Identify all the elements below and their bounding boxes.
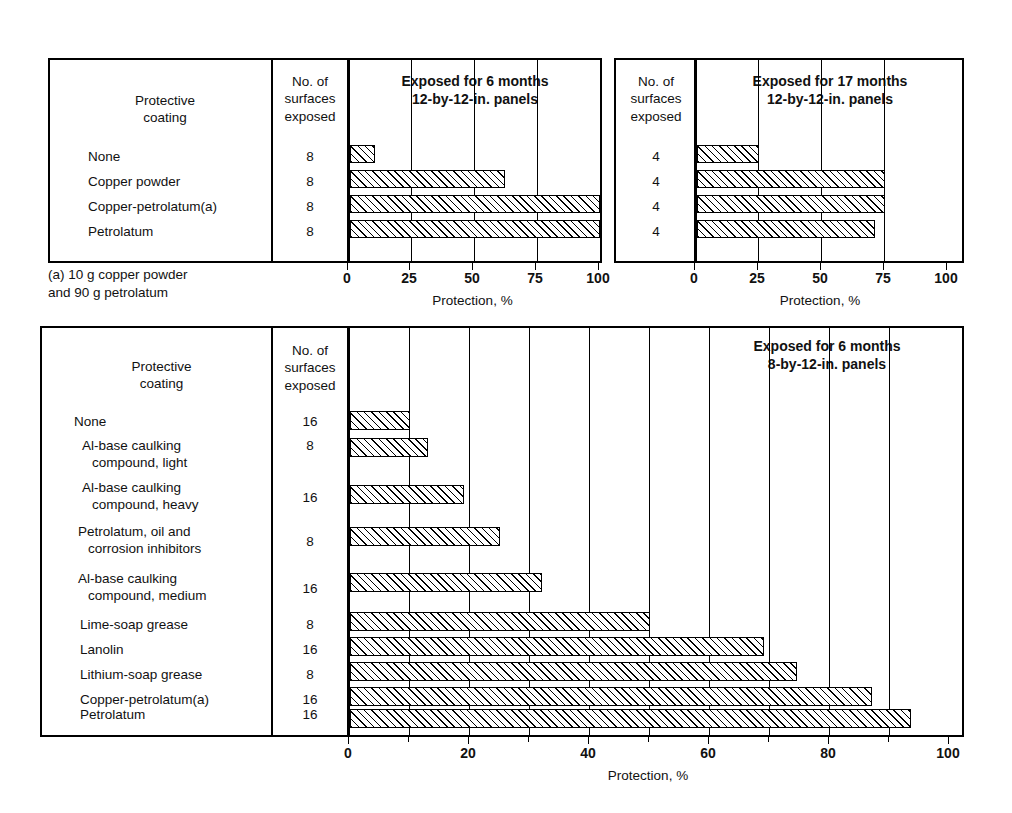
row-label-lime-soap-grease: Lime-soap grease xyxy=(80,617,188,634)
col-header-coating-line2: coating xyxy=(54,375,269,392)
row-label-line: compound, medium xyxy=(78,588,207,605)
axis-title-x: Protection, % xyxy=(347,293,598,308)
row-label-line: Al-base caulking xyxy=(78,571,207,588)
surfaces-value: 4 xyxy=(620,224,692,239)
tick-label: 0 xyxy=(327,270,367,286)
surfaces-value: 8 xyxy=(274,199,346,214)
surfaces-value: 16 xyxy=(274,581,346,596)
col-header-protective-coating: Protective coating xyxy=(60,92,270,127)
col-header-surfaces-line3: exposed xyxy=(274,377,346,394)
surfaces-value: 8 xyxy=(274,534,346,549)
row-label-line: None xyxy=(74,414,106,431)
bar-petrolatum xyxy=(697,220,875,238)
bar-copper-petrolatum xyxy=(350,687,872,706)
bar-lanolin xyxy=(350,637,764,656)
bar-none xyxy=(350,411,410,430)
surfaces-value: 8 xyxy=(274,224,346,239)
tick-mark xyxy=(588,737,589,744)
row-label-petrolatum: Petrolatum xyxy=(80,707,145,724)
bar-none xyxy=(697,145,759,163)
bar-al-base-medium xyxy=(350,573,542,592)
col-header-surfaces-exposed: No. of surfaces exposed xyxy=(274,73,346,125)
bar-none xyxy=(350,145,375,163)
row-label-line: corrosion inhibitors xyxy=(78,541,201,558)
tick-label: 100 xyxy=(926,270,966,286)
bar-lime-soap-grease xyxy=(350,612,650,631)
tick-label: 75 xyxy=(515,270,555,286)
panel-top-left-6-months: Protective coating No. of surfaces expos… xyxy=(48,58,602,263)
surfaces-value: 4 xyxy=(620,149,692,164)
col-header-coating-line1: Protective xyxy=(60,92,270,109)
surfaces-value: 8 xyxy=(274,149,346,164)
axis-title-x: Protection, % xyxy=(694,293,946,308)
surfaces-value: 8 xyxy=(274,667,346,682)
row-label-line: Lanolin xyxy=(80,642,124,659)
col-header-coating-line2: coating xyxy=(60,109,270,126)
tick-mark xyxy=(828,737,829,744)
bar-lithium-soap-grease xyxy=(350,662,797,681)
tick-label: 25 xyxy=(737,270,777,286)
tick-mark xyxy=(708,737,709,744)
tick-label: 40 xyxy=(568,745,608,761)
footnote-a: (a) 10 g copper powder and 90 g petrolat… xyxy=(48,266,288,301)
surfaces-value: 8 xyxy=(274,617,346,632)
row-label-al-base-light: Al-base caulking compound, light xyxy=(82,438,187,471)
plot-area-top-right xyxy=(696,60,962,261)
row-label-copper-powder: Copper powder xyxy=(88,174,180,191)
row-label-lithium-soap-grease: Lithium-soap grease xyxy=(80,667,202,684)
figure-root: Protective coating No. of surfaces expos… xyxy=(0,0,1012,813)
panel-top-right-17-months: No. of surfaces exposed Exposed for 17 m… xyxy=(614,58,964,263)
col-header-protective-coating: Protective coating xyxy=(54,358,269,393)
gridline-75 xyxy=(884,60,885,261)
tick-mark xyxy=(528,737,529,742)
bar-petrolatum-oil-inhibitors xyxy=(350,527,500,546)
column-divider-coating xyxy=(271,60,273,261)
tick-mark xyxy=(468,737,469,744)
tick-mark xyxy=(409,263,410,270)
tick-mark xyxy=(883,263,884,270)
surfaces-value: 16 xyxy=(274,692,346,707)
row-label-none: None xyxy=(74,414,106,431)
col-header-surfaces-line3: exposed xyxy=(274,108,346,125)
col-header-surfaces-exposed: No. of surfaces exposed xyxy=(274,342,346,394)
tick-label: 50 xyxy=(800,270,840,286)
row-label-line: compound, heavy xyxy=(82,497,199,514)
bar-copper-powder xyxy=(350,170,505,188)
tick-mark xyxy=(768,737,769,742)
tick-mark xyxy=(348,737,349,744)
tick-mark xyxy=(888,737,889,742)
tick-mark xyxy=(946,263,947,270)
surfaces-value: 16 xyxy=(274,707,346,722)
row-label-line: Petrolatum xyxy=(80,707,145,724)
tick-label: 25 xyxy=(389,270,429,286)
tick-label: 50 xyxy=(452,270,492,286)
footnote-line2: and 90 g petrolatum xyxy=(48,284,288,302)
col-header-surfaces-line1: No. of xyxy=(620,73,692,90)
row-label-line: Lithium-soap grease xyxy=(80,667,202,684)
tick-mark xyxy=(535,263,536,270)
col-header-coating-line1: Protective xyxy=(54,358,269,375)
bar-al-base-light xyxy=(350,438,428,457)
surfaces-value: 4 xyxy=(620,174,692,189)
panel-bottom-6-months: Protective coating No. of surfaces expos… xyxy=(40,326,964,737)
footnote-line1: (a) 10 g copper powder xyxy=(48,266,288,284)
row-label-none: None xyxy=(88,149,120,166)
surfaces-value: 8 xyxy=(274,438,346,453)
surfaces-value: 16 xyxy=(274,642,346,657)
col-header-surfaces-line2: surfaces xyxy=(620,90,692,107)
plot-area-top-left xyxy=(349,60,600,261)
col-header-surfaces-line3: exposed xyxy=(620,108,692,125)
row-label-line: compound, light xyxy=(82,455,187,472)
surfaces-value: 8 xyxy=(274,174,346,189)
row-label-lanolin: Lanolin xyxy=(80,642,124,659)
bar-petrolatum xyxy=(350,220,600,238)
tick-mark xyxy=(408,737,409,742)
col-header-surfaces-line2: surfaces xyxy=(274,90,346,107)
bar-al-base-heavy xyxy=(350,485,464,504)
bar-copper-petrolatum xyxy=(697,195,885,213)
row-label-line: Al-base caulking xyxy=(82,480,199,497)
bar-petrolatum xyxy=(350,709,911,728)
tick-mark xyxy=(820,263,821,270)
col-header-surfaces-line2: surfaces xyxy=(274,359,346,376)
tick-mark xyxy=(598,263,599,270)
